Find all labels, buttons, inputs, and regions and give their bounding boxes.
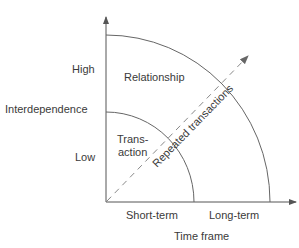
x-tick-long-term: Long-term [209,210,259,221]
region-transaction-line2: action [117,146,148,159]
y-axis-title: Interdependence [5,104,88,115]
x-tick-short-term: Short-term [126,210,178,221]
region-transaction-line1: Trans- [117,133,148,146]
y-tick-low: Low [75,152,95,163]
y-tick-high: High [72,64,95,75]
x-axis-title: Time frame [174,231,229,242]
repeated-transactions-label: Repeated transactions [150,82,236,170]
region-transaction: Trans- action [117,133,148,159]
region-relationship: Relationship [124,72,185,83]
